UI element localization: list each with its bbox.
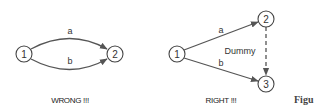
right-node-3: 3 [258, 76, 274, 92]
right-node-3-label: 3 [263, 79, 269, 90]
wrong-node-1: 1 [16, 46, 32, 62]
wrong-node-2: 2 [107, 46, 123, 62]
right-node-2-label: 2 [263, 14, 269, 25]
wrong-edge-b-label: b [67, 56, 72, 66]
wrong-node-1-label: 1 [21, 49, 27, 60]
wrong-diagram: a b 1 2 WRONG !!! [16, 26, 123, 105]
wrong-edge-a-label: a [67, 26, 72, 36]
wrong-edge-a [31, 39, 107, 50]
right-edge-dummy-label: Dummy [225, 46, 256, 56]
wrong-caption: WRONG !!! [51, 96, 89, 105]
right-caption: RIGHT !!! [206, 96, 237, 105]
figure-label: Figu [294, 94, 314, 105]
network-diagram: a b 1 2 WRONG !!! a b Dummy 1 2 3 [0, 0, 319, 112]
right-node-2: 2 [258, 11, 274, 27]
right-edge-a-label: a [218, 25, 223, 35]
right-node-1-label: 1 [174, 49, 180, 60]
right-edge-b-label: b [218, 58, 223, 68]
wrong-node-2-label: 2 [112, 49, 118, 60]
right-diagram: a b Dummy 1 2 3 RIGHT !!! [169, 11, 274, 105]
right-node-1: 1 [169, 46, 185, 62]
